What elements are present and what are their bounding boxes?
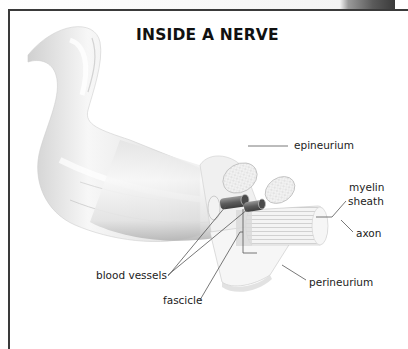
fascicle-bundle-2: [260, 171, 300, 209]
label-axon: axon: [356, 227, 381, 239]
label-fascicle: fascicle: [163, 294, 202, 306]
label-blood-vessels: blood vessels: [96, 269, 167, 281]
label-myelin: myelin: [349, 181, 384, 193]
label-sheath: sheath: [348, 195, 384, 207]
diagram-title: INSIDE A NERVE: [136, 26, 279, 44]
label-epineurium: epineurium: [294, 139, 354, 151]
label-perineurium: perineurium: [309, 276, 373, 288]
